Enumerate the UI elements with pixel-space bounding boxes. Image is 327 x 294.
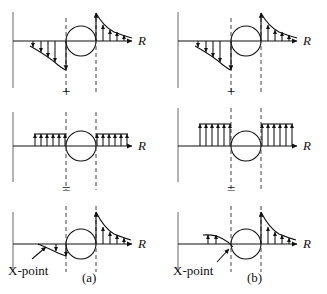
panel-b-row-2: R (178, 108, 311, 190)
left-arrow-group (198, 41, 231, 70)
right-arrow-group (96, 212, 124, 244)
axis-label-R: R (137, 33, 146, 48)
right-envelope-curve (96, 13, 132, 38)
panel-b-canvas: R (163, 0, 326, 294)
panel-a: R (0, 0, 163, 294)
panel-b-row-1: R (178, 12, 311, 95)
right-arrow-group (262, 124, 292, 146)
panel-caption: (a) (82, 270, 96, 286)
panel-b: R (163, 0, 326, 294)
axis-label-R: R (302, 33, 311, 48)
panel-a-canvas: R (0, 0, 163, 294)
right-envelope-curve (261, 13, 297, 38)
panel-caption: (b) (247, 270, 262, 286)
right-envelope-curve (96, 212, 131, 240)
axis-label-R: R (302, 236, 311, 251)
left-arrow-group (33, 41, 66, 70)
xpoint-pointer-arrow (32, 247, 46, 259)
operator-plus: + (227, 84, 235, 99)
left-arrow-group (35, 134, 65, 146)
right-arrow-group (261, 13, 289, 41)
xpoint-pointer-arrow (217, 249, 229, 262)
operator-equals: = (227, 182, 235, 197)
axis-label-R: R (137, 138, 146, 153)
xpoint-label: X-point (8, 263, 48, 279)
panel-a-row-2: R (13, 112, 146, 190)
xpoint-label: X-point (173, 263, 213, 279)
operator-plus: + (62, 84, 70, 99)
figure-root: R (0, 0, 327, 294)
panel-a-row-1: R (13, 12, 146, 95)
left-arrow-group (200, 124, 230, 146)
right-arrow-group (96, 13, 124, 41)
axis-label-R: R (302, 138, 311, 153)
left-arrow-group (208, 235, 216, 244)
right-arrow-group (261, 212, 289, 244)
operator-equals: = (62, 182, 70, 197)
right-arrow-group (97, 134, 127, 146)
right-envelope-curve (261, 212, 296, 240)
axis-label-R: R (137, 236, 146, 251)
